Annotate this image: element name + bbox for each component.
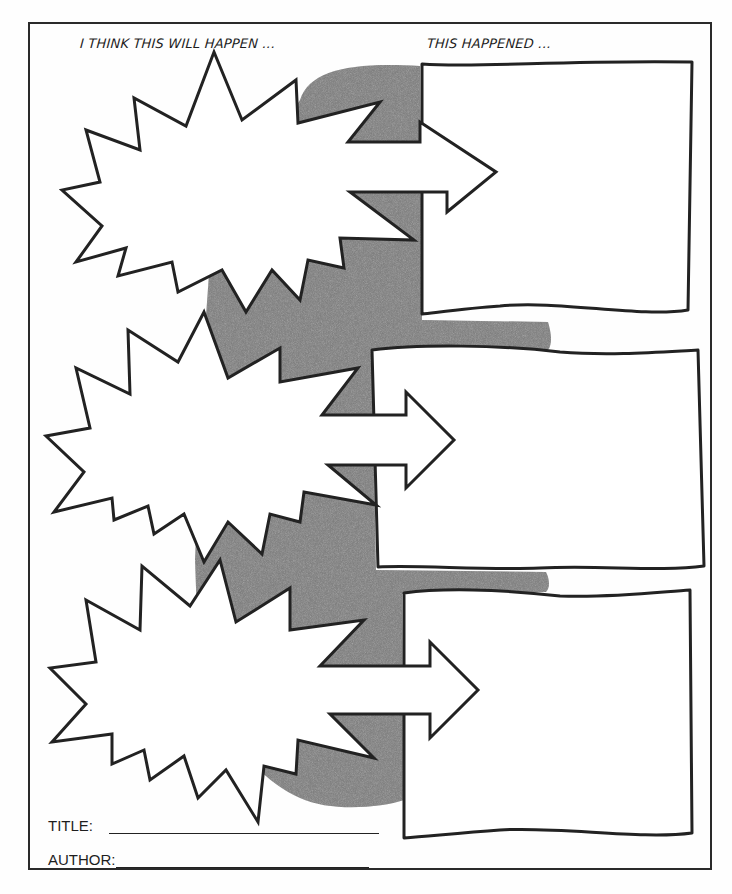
author-input-line[interactable] <box>116 852 369 868</box>
author-field: AUTHOR: <box>48 851 369 868</box>
outcome-column-heading: THIS HAPPENED ... <box>426 36 551 51</box>
worksheet-page: I THINK THIS WILL HAPPEN ... THIS HAPPEN… <box>0 0 732 894</box>
title-input-line[interactable] <box>109 818 379 834</box>
prediction-column-heading: I THINK THIS WILL HAPPEN ... <box>79 36 276 51</box>
author-label: AUTHOR: <box>48 851 116 868</box>
organizer-artwork <box>0 0 732 894</box>
title-label: TITLE: <box>48 817 93 834</box>
title-field: TITLE: <box>48 817 379 834</box>
